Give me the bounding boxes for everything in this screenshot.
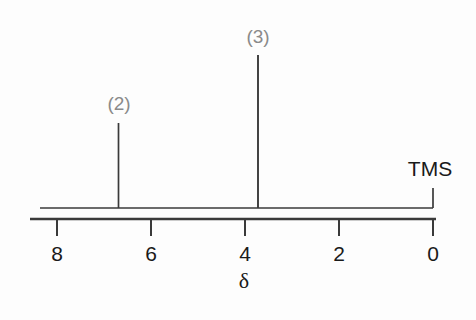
peak-label-3: (3)	[246, 26, 269, 47]
axis-tick-label-8: 8	[51, 242, 63, 265]
peak-label-2: (2)	[107, 93, 130, 114]
spectrum-trace	[40, 55, 433, 208]
tms-reference-label: TMS	[408, 157, 452, 180]
axis-tick-label-4: 4	[239, 242, 251, 265]
axis-title-delta: δ	[239, 268, 249, 293]
spectrum-canvas: 8 6 4 2 0 δ (2) (3) TMS	[0, 0, 476, 320]
delta-axis	[30, 219, 436, 236]
axis-tick-label-2: 2	[333, 242, 345, 265]
axis-tick-labels: 8 6 4 2 0	[51, 242, 439, 265]
axis-tick-label-6: 6	[145, 242, 157, 265]
nmr-spectrum-figure: 8 6 4 2 0 δ (2) (3) TMS	[0, 0, 476, 320]
axis-tick-label-0: 0	[427, 242, 439, 265]
